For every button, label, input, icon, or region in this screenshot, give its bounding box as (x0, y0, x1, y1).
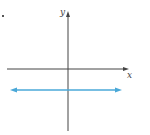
left-arrow-icon (10, 88, 17, 93)
y-axis-arrow-icon (66, 11, 70, 17)
coordinate-plane (0, 0, 150, 135)
x-axis-label: x (127, 71, 132, 80)
y-axis-label: y (60, 8, 65, 17)
right-arrow-icon (115, 88, 122, 93)
y-axis (66, 11, 70, 131)
horizontal-line (10, 88, 122, 93)
